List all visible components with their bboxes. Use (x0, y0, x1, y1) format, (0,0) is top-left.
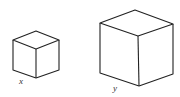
cube-x (13, 31, 59, 78)
cube-diagram: x y (0, 0, 180, 97)
cube-y (100, 10, 173, 86)
cube-x-label: x (19, 77, 23, 86)
cubes-drawing (0, 0, 180, 97)
cube-y-label: y (113, 84, 117, 93)
